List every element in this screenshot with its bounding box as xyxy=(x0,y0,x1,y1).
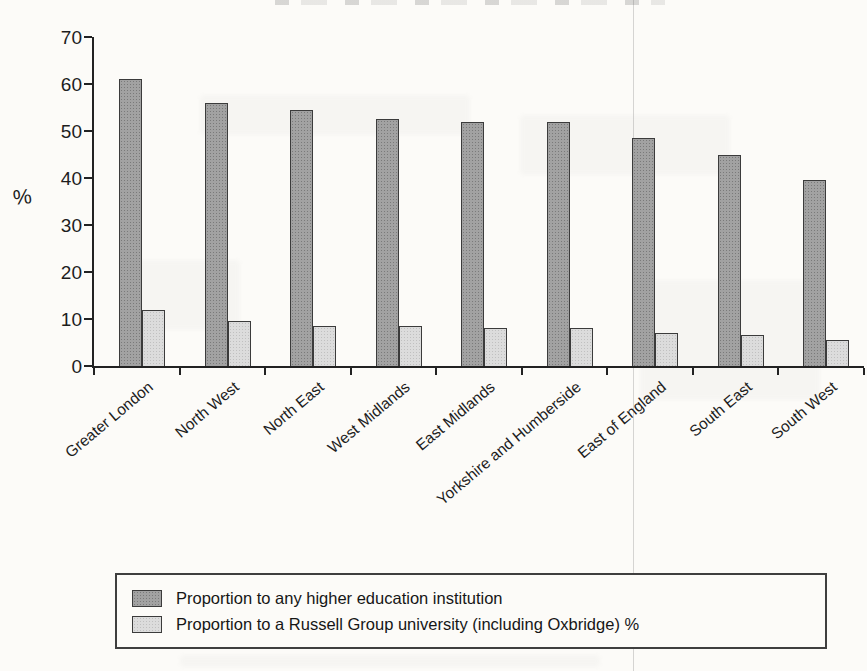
y-tick-mark xyxy=(84,36,92,38)
bar-a-east-midlands xyxy=(484,328,507,366)
y-tick-mark xyxy=(84,130,92,132)
y-tick-label: 10 xyxy=(30,310,82,329)
y-tick-mark xyxy=(84,271,92,273)
bar-a-south-west xyxy=(826,340,849,366)
bar-a-west-midlands xyxy=(399,326,422,366)
y-tick-label: 60 xyxy=(30,75,82,94)
x-tick-mark xyxy=(264,368,266,375)
x-tick-mark xyxy=(179,368,181,375)
legend-swatch-light-gray xyxy=(132,616,162,633)
bar-any-south-west xyxy=(803,180,826,366)
bar-any-yorkshire-and-humberside xyxy=(547,122,570,366)
x-tick-mark xyxy=(521,368,523,375)
bar-a-north-east xyxy=(313,326,336,366)
x-tick-mark xyxy=(93,368,95,375)
bar-a-greater-london xyxy=(142,310,165,366)
y-tick-label: 40 xyxy=(30,169,82,188)
y-tick-label: 20 xyxy=(30,263,82,282)
y-tick-mark xyxy=(84,177,92,179)
bar-a-yorkshire-and-humberside xyxy=(570,328,593,366)
bar-any-south-east xyxy=(718,155,741,367)
scanned-book-page: % 010203040506070Greater LondonNorth Wes… xyxy=(0,0,867,671)
legend-swatch-dark-gray xyxy=(132,590,162,607)
y-tick-label: 70 xyxy=(30,28,82,47)
y-tick-mark xyxy=(84,318,92,320)
x-tick-mark xyxy=(606,368,608,375)
bar-any-north-east xyxy=(290,110,313,366)
y-tick-label: 0 xyxy=(30,357,82,376)
y-tick-mark xyxy=(84,365,92,367)
bar-any-north-west xyxy=(205,103,228,366)
legend-label: Proportion to a Russell Group university… xyxy=(176,615,639,634)
bar-any-east-of-england xyxy=(632,138,655,366)
bar-a-south-east xyxy=(741,335,764,366)
x-tick-mark xyxy=(350,368,352,375)
bar-chart: % 010203040506070Greater LondonNorth Wes… xyxy=(0,0,867,560)
y-tick-label: 50 xyxy=(30,122,82,141)
bar-any-greater-london xyxy=(119,79,142,366)
bar-a-east-of-england xyxy=(655,333,678,366)
legend-item-russell-group: Proportion to a Russell Group university… xyxy=(132,615,825,634)
y-axis-unit-label: % xyxy=(12,184,33,210)
y-tick-mark xyxy=(84,224,92,226)
plot-area xyxy=(92,37,864,368)
x-tick-mark xyxy=(863,368,865,375)
bar-a-north-west xyxy=(228,321,251,366)
y-tick-label: 30 xyxy=(30,216,82,235)
x-tick-mark xyxy=(435,368,437,375)
bar-any-east-midlands xyxy=(461,122,484,366)
y-tick-mark xyxy=(84,83,92,85)
legend-item-any-he: Proportion to any higher education insti… xyxy=(132,589,825,608)
chart-legend: Proportion to any higher education insti… xyxy=(115,573,827,649)
bleedthrough-smudge xyxy=(180,655,600,667)
bar-any-west-midlands xyxy=(376,119,399,366)
x-tick-mark xyxy=(777,368,779,375)
legend-label: Proportion to any higher education insti… xyxy=(176,589,503,608)
x-tick-mark xyxy=(692,368,694,375)
